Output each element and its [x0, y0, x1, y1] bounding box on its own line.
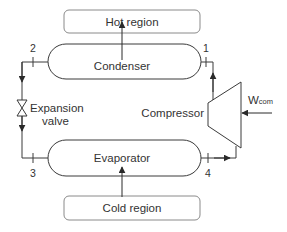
right-pipe-bottom	[201, 146, 236, 158]
work-symbol: W	[248, 94, 259, 106]
work-input-label: Wcom	[248, 94, 273, 106]
hot-region-box: Hot region	[64, 10, 200, 33]
hot-region-label: Hot region	[105, 16, 158, 28]
cold-region-box: Cold region	[64, 196, 200, 220]
work-subscript: com	[259, 97, 273, 106]
cold-region-label: Cold region	[103, 202, 162, 214]
state-point-2-label: 2	[30, 42, 36, 54]
evaporator: Evaporator	[48, 140, 201, 176]
state-point-4-label: 4	[205, 167, 211, 179]
evaporator-label: Evaporator	[94, 152, 150, 164]
compressor-label: Compressor	[141, 107, 204, 119]
state-point-1-label: 1	[203, 42, 209, 54]
expansion-label-2: valve	[42, 115, 69, 127]
expansion-label-1: Expansion	[30, 102, 84, 114]
condenser-label: Condenser	[94, 60, 150, 72]
state-point-3-label: 3	[30, 167, 36, 179]
right-pipe-top	[201, 62, 213, 103]
expansion-valve-icon	[17, 100, 27, 116]
condenser: Condenser	[48, 44, 201, 79]
refrigeration-cycle-diagram: Hot region Condenser Evaporator Cold reg…	[0, 0, 287, 232]
